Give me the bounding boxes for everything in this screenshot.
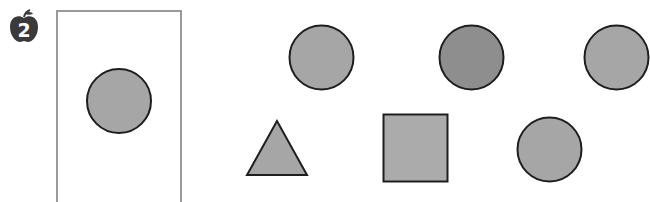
exercise-badge: 2 [8,8,40,44]
exercise-number: 2 [17,19,30,41]
apple-icon: 2 [8,8,40,44]
option-circle-1[interactable] [288,24,355,91]
option-circle-dark[interactable] [438,24,505,91]
example-circle [85,67,153,135]
option-triangle[interactable] [244,118,310,178]
option-circle-4[interactable] [516,116,583,183]
option-square[interactable] [382,113,449,183]
option-circle-3[interactable] [583,24,650,91]
